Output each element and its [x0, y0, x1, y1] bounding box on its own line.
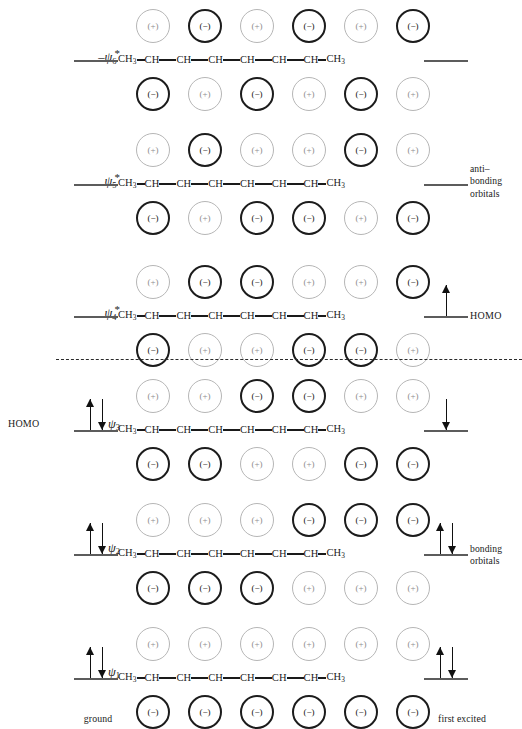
orbital-lobe-psi4-bottom-6: (+)	[396, 333, 430, 367]
chain-atom-label: CH	[208, 673, 223, 684]
orbital-lobe-psi6-bottom-1: (−)	[136, 77, 170, 111]
electron-arrow-down-icon	[97, 399, 108, 430]
orbital-lobe-psi6-bottom-3: (−)	[240, 77, 274, 111]
electron-arrow-up-icon	[441, 285, 452, 316]
psi1-right-electrons	[424, 646, 468, 678]
homo-label-right: HOMO	[470, 311, 502, 321]
bond-line	[223, 59, 240, 60]
chain-atom-label: CH	[304, 425, 319, 436]
orbital-row-psi3: HOMOψ3(+)(+)(−)(−)(+)(+)CH3CHCHCHCHCHCHC…	[0, 370, 522, 490]
chain-atom-label: CH	[240, 311, 255, 322]
carbon-chain: CH3CHCHCHCHCHCHCH3	[118, 420, 418, 440]
energy-level-psi5-left[interactable]	[74, 124, 120, 244]
energy-level-line	[74, 678, 118, 680]
chain-atom-label: CH	[208, 55, 223, 66]
chain-atom-label: CH	[145, 55, 160, 66]
electron-arrow-down-icon	[97, 647, 108, 678]
bond-line	[159, 553, 176, 554]
bond-line	[159, 183, 176, 184]
orbital-lobe-psi3-top-5: (+)	[344, 379, 378, 413]
chain-atom-label: CH	[145, 311, 160, 322]
carbon-chain: CH3CHCHCHCHCHCHCH3	[118, 50, 418, 70]
energy-level-psi4-left[interactable]	[74, 256, 120, 376]
chain-atom-label: CH	[145, 549, 160, 560]
chain-atom-label: CH	[304, 55, 319, 66]
energy-level-psi5-right[interactable]	[424, 124, 470, 244]
bond-line	[223, 183, 240, 184]
chain-atom-label: CH	[304, 673, 319, 684]
chain-atom-label: CH	[208, 311, 223, 322]
orbital-lobe-row-top: (+)(−)(−)(+)(+)(−)	[118, 264, 418, 300]
energy-level-psi4-right[interactable]	[424, 256, 470, 376]
energy-level-psi3-right[interactable]	[424, 370, 470, 490]
energy-level-line	[424, 60, 468, 62]
chain-atom-label: CH	[304, 549, 319, 560]
chain-atom-label: CH	[176, 311, 191, 322]
psi3-left-electrons	[74, 398, 118, 430]
bond-line	[191, 315, 208, 316]
orbital-lobe-psi3-bottom-4: (+)	[292, 447, 326, 481]
orbital-lobe-psi1-bottom-3: (−)	[240, 695, 274, 729]
energy-level-line	[424, 184, 468, 186]
electron-arrow-down-icon	[447, 523, 458, 554]
carbon-chain: CH3CHCHCHCHCHCHCH3	[118, 174, 418, 194]
bond-line	[287, 59, 304, 60]
chain-atom-label: CH	[240, 549, 255, 560]
chain-atom-label: CH	[272, 673, 287, 684]
chain-atom-label: CH	[176, 55, 191, 66]
bond-line	[137, 183, 145, 184]
molecule-psi5: (+)(−)(+)(+)(−)(+)CH3CHCHCHCHCHCHCH3(−)(…	[118, 124, 418, 244]
molecule-psi1: (+)(+)(+)(+)(+)(+)CH3CHCHCHCHCHCHCH3(−)(…	[118, 618, 418, 729]
orbital-lobe-row-bottom: (−)(−)(+)(+)(−)(−)	[118, 446, 418, 482]
bond-line	[137, 59, 145, 60]
carbon-chain: CH3CHCHCHCHCHCHCH3	[118, 544, 418, 564]
electron-arrow-down-icon	[97, 523, 108, 554]
carbon-chain: CH3CHCHCHCHCHCHCH3	[118, 306, 418, 326]
molecule-psi3: (+)(+)(−)(−)(+)(+)CH3CHCHCHCHCHCHCH3(−)(…	[118, 370, 418, 490]
energy-level-line	[424, 554, 468, 556]
orbital-lobe-psi4-top-4: (+)	[292, 265, 326, 299]
orbital-lobe-psi5-bottom-6: (−)	[396, 201, 430, 235]
orbital-lobe-psi5-top-1: (+)	[136, 133, 170, 167]
orbital-lobe-psi6-bottom-6: (+)	[396, 77, 430, 111]
orbital-lobe-psi3-top-2: (+)	[188, 379, 222, 413]
bond-line	[159, 315, 176, 316]
orbital-lobe-psi4-bottom-3: (+)	[240, 333, 274, 367]
homo-label-left: HOMO	[8, 419, 39, 429]
energy-level-psi3-left[interactable]	[74, 370, 120, 490]
bond-line	[191, 59, 208, 60]
chain-atom-label: CH3	[118, 54, 137, 66]
bond-line	[159, 429, 176, 430]
orbital-lobe-row-bottom: (−)(−)(−)(−)(−)(−)	[118, 694, 418, 729]
energy-level-psi2-right[interactable]	[424, 494, 470, 614]
chain-atom-label: CH	[176, 425, 191, 436]
energy-level-psi6-left[interactable]	[74, 0, 120, 120]
page-edge-artifact	[512, 4, 522, 46]
mo-energy-diagram: –ψ6*(+)(−)(+)(−)(+)(−)CH3CHCHCHCHCHCHCH3…	[0, 0, 522, 729]
orbital-lobe-psi2-bottom-1: (−)	[136, 571, 170, 605]
orbital-row-psi2: ψ2(+)(+)(+)(−)(−)(−)CH3CHCHCHCHCHCHCH3(−…	[0, 494, 522, 614]
orbital-lobe-psi5-bottom-2: (+)	[188, 201, 222, 235]
chain-atom-label: CH3	[326, 548, 345, 560]
bond-line	[255, 677, 272, 678]
chain-atom-label: CH	[272, 179, 287, 190]
orbital-row-psi5: ψ5*(+)(−)(+)(+)(−)(+)CH3CHCHCHCHCHCHCH3(…	[0, 124, 522, 244]
bond-line	[137, 553, 145, 554]
orbital-lobe-psi4-bottom-2: (+)	[188, 333, 222, 367]
energy-level-psi2-left[interactable]	[74, 494, 120, 614]
energy-level-line	[74, 554, 118, 556]
molecule-psi4: (+)(−)(−)(+)(+)(−)CH3CHCHCHCHCHCHCH3(−)(…	[118, 256, 418, 376]
chain-atom-label: CH	[176, 179, 191, 190]
chain-atom-label: CH	[176, 549, 191, 560]
orbital-lobe-psi5-top-3: (+)	[240, 133, 274, 167]
chain-atom-label: CH	[240, 425, 255, 436]
energy-level-line	[74, 184, 118, 186]
carbon-chain: CH3CHCHCHCHCHCHCH3	[118, 668, 418, 688]
bond-line	[287, 315, 304, 316]
energy-level-psi6-right[interactable]	[424, 0, 470, 120]
psi4-left-electrons	[74, 284, 118, 316]
bonding-orbitals-caption: bondingorbitals	[470, 543, 502, 568]
bond-line	[191, 183, 208, 184]
orbital-lobe-psi5-top-6: (+)	[396, 133, 430, 167]
orbital-lobe-psi5-bottom-4: (−)	[292, 201, 326, 235]
